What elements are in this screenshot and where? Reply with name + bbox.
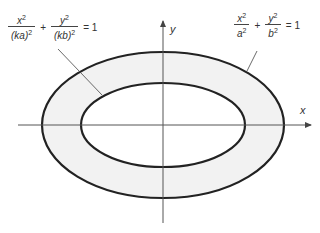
- fraction-y: y2 b2: [265, 10, 280, 40]
- fraction-y: y2 (kb)2: [51, 12, 78, 42]
- outer-ellipse-equation: x2 a2 + y2 b2 = 1: [232, 10, 303, 40]
- fraction-x: x2 a2: [234, 10, 249, 40]
- outer-ellipse-leader: [247, 51, 257, 71]
- y-axis-label: y: [170, 23, 176, 35]
- fraction-x: x2 (ka)2: [8, 12, 35, 42]
- x-axis-label: x: [300, 104, 306, 116]
- inner-ellipse-equation: x2 (ka)2 + y2 (kb)2 = 1: [6, 12, 100, 42]
